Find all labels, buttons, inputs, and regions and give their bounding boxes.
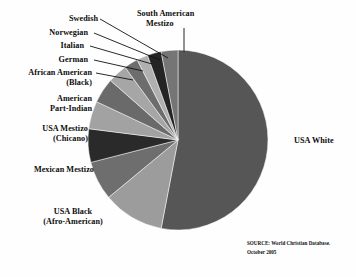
label-mexican-mestizo: Mexican Mestizo [0, 165, 94, 175]
label-norwegian: Norwegian [14, 28, 88, 38]
label-american-part-indian-line1: American [8, 94, 92, 104]
label-german: German [14, 55, 88, 65]
label-usa-white: USA White [294, 136, 356, 146]
label-usa-mestizo-line1: USA Mestizo [4, 124, 88, 134]
label-south-american-mestizo-line2: Mestizo [146, 19, 226, 29]
label-usa-mestizo-line2: (Chicano) [4, 134, 88, 144]
source-note: SOURCE: World Christian Database. Octobe… [247, 239, 355, 256]
label-south-american-mestizo-line1: South American [137, 9, 232, 19]
pie-chart-figure: Swedish South American Mestizo Norwegian… [0, 0, 356, 277]
label-american-part-indian-line2: Part-Indian [8, 104, 92, 114]
label-african-american-line1: African American [2, 68, 92, 78]
source-note-line2: October 2005 [247, 248, 355, 257]
leader-line-norwegian [94, 33, 160, 60]
label-usa-black-line1: USA Black [26, 207, 120, 217]
source-note-line1: SOURCE: World Christian Database. [247, 239, 355, 248]
label-african-american-line2: (Black) [2, 78, 92, 88]
label-italian: Italian [14, 41, 84, 51]
label-swedish: Swedish [24, 14, 98, 24]
label-usa-black-line2: (Afro-American) [26, 217, 120, 227]
